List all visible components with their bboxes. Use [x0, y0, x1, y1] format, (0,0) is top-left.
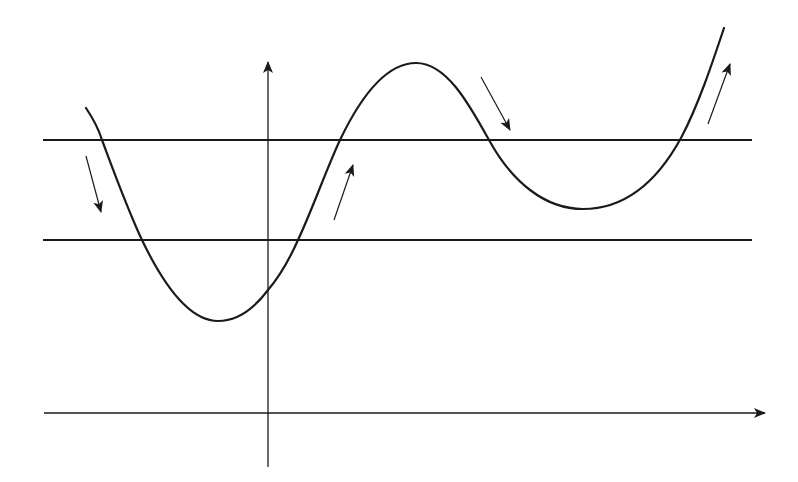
function-curve: [86, 28, 724, 321]
arrow-down-left-icon: [86, 156, 101, 212]
arrow-down-right-icon: [481, 77, 510, 130]
axes: [44, 62, 765, 467]
direction-arrows: [86, 64, 730, 220]
arrow-up-center-icon: [334, 165, 353, 220]
threshold-lines: [43, 140, 752, 240]
arrow-up-far-right-icon: [708, 64, 730, 124]
curve-diagram: [0, 0, 798, 482]
